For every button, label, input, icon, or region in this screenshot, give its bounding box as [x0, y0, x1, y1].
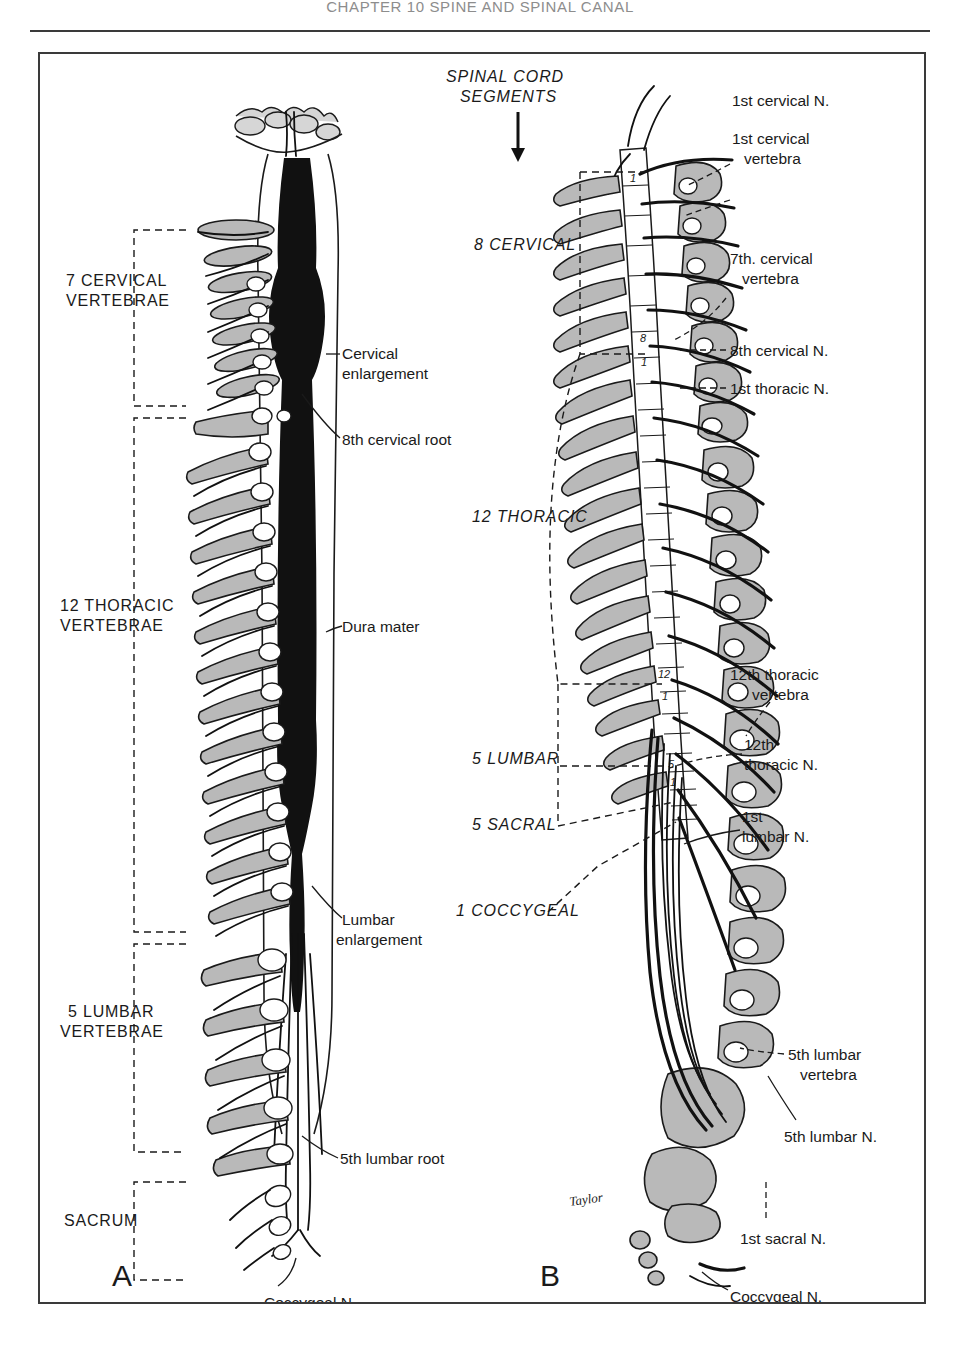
callout-5th-lumbar-vertebra-line1: 5th lumbar: [788, 1046, 861, 1063]
bracket-label-lumbar-line2: VERTEBRAE: [60, 1023, 164, 1040]
callout-8th-cervical-n: 8th cervical N.: [730, 342, 828, 359]
cord-top-b: [628, 86, 654, 146]
callout-12th-thoracic-vertebra-line2: vertebra: [752, 686, 809, 703]
panel-b-title-line2: SEGMENTS: [460, 88, 557, 105]
segment-number-t12: 12: [658, 668, 670, 680]
segment-number-c1: 1: [630, 172, 636, 184]
callout-5th-lumbar-root: 5th lumbar root: [340, 1150, 445, 1167]
leader-5th-lumbar-n: [768, 1076, 796, 1120]
bracket-label-lumbar-line1: 5 LUMBAR: [68, 1003, 154, 1020]
segment-group-coccygeal: 1 COCCYGEAL: [456, 902, 580, 919]
callout-12th-thoracic-vertebra-line1: 12th thoracic: [730, 666, 819, 683]
bracket-lumbar: [134, 944, 186, 1152]
callout-1st-thoracic-n: 1st thoracic N.: [730, 380, 829, 397]
callout-1st-lumbar-n-line2: lumbar N.: [742, 828, 809, 845]
callout-coccygeal-n-a: Coccygeal N.: [264, 1294, 356, 1302]
header-rule: [30, 30, 930, 32]
callout-lumbar-enlargement-line2: enlargement: [336, 931, 423, 948]
callout-coccygeal-n-b: Coccygeal N.: [730, 1288, 822, 1302]
callout-1st-cervical-vertebra-line1: 1st cervical: [732, 130, 810, 147]
cord-top-b2: [644, 96, 670, 150]
vertebral-bodies-b: [674, 162, 786, 1067]
segment-group-lumbar: 5 LUMBAR: [472, 750, 559, 767]
callout-1st-cervical-vertebra-line2: vertebra: [744, 150, 801, 167]
bracket-label-thoracic-line1: 12 THORACIC: [60, 597, 174, 614]
leader-coccygeal-n-a: [278, 1258, 296, 1286]
leader-lumbar-enlargement: [312, 886, 342, 918]
panel-a-illustration: 7 CERVICAL VERTEBRAE 12 THORACIC VERTEBR…: [60, 107, 452, 1302]
bracket-label-cervical-line2: VERTEBRAE: [66, 292, 170, 309]
leader-5th-lumbar-root: [302, 1136, 338, 1158]
leader-coccygeal-n-b: [702, 1272, 728, 1290]
bracket-cervical: [134, 230, 186, 406]
figure-frame: 7 CERVICAL VERTEBRAE 12 THORACIC VERTEBR…: [38, 52, 926, 1304]
sacrum-a: [230, 1182, 294, 1270]
callout-12th-thoracic-n-line2: thoracic N.: [744, 756, 818, 773]
brainstem-group: [235, 107, 342, 156]
thoracic-vertebrae-a: [187, 443, 293, 936]
coccygeal-nerve-b: [690, 1276, 730, 1286]
panel-b-title-line1: SPINAL CORD: [446, 68, 564, 85]
group-guide-coccygeal: [548, 822, 676, 912]
segment-group-cervical: 8 CERVICAL: [474, 236, 576, 253]
callout-5th-lumbar-vertebra-line2: vertebra: [800, 1066, 857, 1083]
bracket-label-sacrum: SACRUM: [64, 1212, 138, 1229]
callout-7th-cervical-vertebra-line2: vertebra: [742, 270, 799, 287]
panel-letter-a: A: [112, 1259, 132, 1292]
running-head: CHAPTER 10 SPINE AND SPINAL CANAL: [0, 0, 960, 15]
coccyx-b: [630, 1231, 664, 1285]
callout-12th-thoracic-n-line1: 12th: [744, 736, 774, 753]
sacrum-b: [644, 1068, 744, 1243]
panel-b-illustration: SPINAL CORD SEGMENTS: [446, 68, 877, 1302]
callout-5th-lumbar-n: 5th lumbar N.: [784, 1128, 877, 1145]
callout-cervical-enlargement-line1: Cervical: [342, 345, 398, 362]
callout-1st-lumbar-n-line1: 1st: [742, 808, 763, 825]
callout-8th-cervical-root: 8th cervical root: [342, 431, 452, 448]
sacral-nerve-tail: [700, 1264, 744, 1270]
coccygeal-filament-a-right: [300, 1230, 320, 1256]
callout-dura-mater: Dura mater: [342, 618, 420, 635]
segment-number-c8: 8: [640, 332, 647, 344]
artist-signature: Taylor: [568, 1189, 604, 1209]
segment-group-thoracic: 12 THORACIC: [472, 508, 588, 525]
segment-group-sacral: 5 SACRAL: [472, 816, 557, 833]
anatomy-plate: 7 CERVICAL VERTEBRAE 12 THORACIC VERTEBR…: [40, 54, 924, 1302]
callout-1st-cervical-n: 1st cervical N.: [732, 92, 829, 109]
callout-cervical-enlargement-line2: enlargement: [342, 365, 429, 382]
cervical-vertebrae-a: [198, 220, 281, 410]
callout-lumbar-enlargement-line1: Lumbar: [342, 911, 395, 928]
callout-1st-sacral-n: 1st sacral N.: [740, 1230, 826, 1247]
segment-number-t1: 1: [641, 356, 647, 368]
figure-page: CHAPTER 10 SPINE AND SPINAL CANAL: [0, 0, 960, 1354]
callout-7th-cervical-vertebra-line1: 7th. cervical: [730, 250, 813, 267]
lumbar-vertebrae-a: [201, 949, 293, 1176]
eighth-cervical-root-a: [194, 408, 291, 437]
bracket-label-cervical-line1: 7 CERVICAL: [66, 272, 167, 289]
bracket-sacrum: [134, 1182, 186, 1280]
segment-number-l1: 1: [662, 690, 668, 702]
panel-letter-b: B: [540, 1259, 560, 1292]
down-arrow-icon: [511, 112, 525, 162]
bracket-thoracic: [134, 418, 186, 932]
bracket-label-thoracic-line2: VERTEBRAE: [60, 617, 164, 634]
